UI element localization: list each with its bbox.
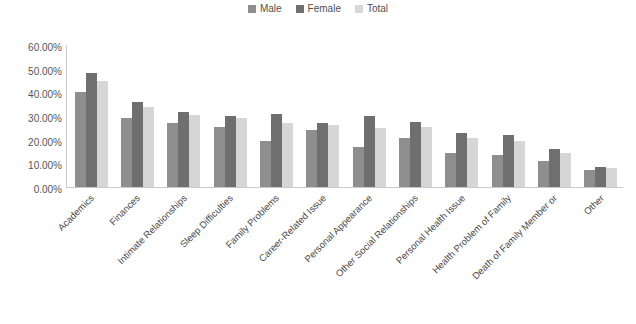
y-tick-label: 60.00% [0, 43, 62, 53]
bar-total[interactable] [328, 125, 339, 187]
bar-group [531, 45, 577, 187]
bar-female[interactable] [410, 122, 421, 187]
x-tick-label: Academics [56, 193, 96, 233]
y-tick-label: 0.00% [0, 185, 62, 195]
x-tick-label: Finances [108, 193, 143, 228]
bar-group [253, 45, 299, 187]
bar-male[interactable] [492, 155, 503, 187]
bar-total[interactable] [236, 118, 247, 187]
bar-group [578, 45, 624, 187]
bar-female[interactable] [317, 123, 328, 187]
x-tick-label: Other [582, 193, 606, 217]
y-tick-label: 10.00% [0, 161, 62, 171]
x-tick-slot: Sleep Difficulties [205, 189, 251, 319]
bar-female[interactable] [364, 116, 375, 187]
legend-swatch-total [355, 5, 363, 13]
bar-female[interactable] [86, 73, 97, 187]
bar-group [392, 45, 438, 187]
bar-total[interactable] [514, 141, 525, 187]
bar-female[interactable] [456, 133, 467, 187]
bar-male[interactable] [214, 127, 225, 187]
bar-total[interactable] [97, 81, 108, 188]
bar-male[interactable] [75, 92, 86, 187]
bar-total[interactable] [421, 127, 432, 187]
bar-total[interactable] [189, 115, 200, 187]
y-tick-label: 50.00% [0, 67, 62, 77]
bar-female[interactable] [271, 114, 282, 187]
bar-groups [68, 45, 624, 187]
bar-male[interactable] [399, 138, 410, 187]
bar-total[interactable] [282, 123, 293, 187]
plot-area [66, 45, 623, 188]
bar-male[interactable] [121, 118, 132, 187]
bar-female[interactable] [225, 116, 236, 187]
legend-item-total[interactable]: Total [355, 4, 388, 14]
bar-male[interactable] [584, 170, 595, 187]
bar-total[interactable] [467, 138, 478, 187]
bar-group [439, 45, 485, 187]
bar-chart: Male Female Total 60.00% 50.00% 40.00% 3… [0, 0, 636, 324]
legend-label-total: Total [367, 4, 388, 14]
bar-total[interactable] [560, 153, 571, 187]
chart-legend: Male Female Total [0, 4, 636, 14]
x-tick-slot: Death of Family Member or [529, 189, 575, 319]
legend-label-male: Male [260, 4, 282, 14]
x-tick-slot: Academics [66, 189, 112, 319]
bar-group [161, 45, 207, 187]
bar-group [114, 45, 160, 187]
legend-label-female: Female [308, 4, 341, 14]
y-tick-label: 20.00% [0, 138, 62, 148]
legend-item-male[interactable]: Male [248, 4, 282, 14]
bar-male[interactable] [445, 153, 456, 187]
legend-swatch-male [248, 5, 256, 13]
legend-item-female[interactable]: Female [296, 4, 341, 14]
bar-group [68, 45, 114, 187]
bar-total[interactable] [375, 128, 386, 187]
x-axis: AcademicsFinancesIntimate RelationshipsS… [66, 189, 622, 319]
bar-male[interactable] [260, 141, 271, 187]
y-tick-label: 40.00% [0, 90, 62, 100]
bar-group [300, 45, 346, 187]
bar-total[interactable] [606, 168, 617, 187]
y-tick-label: 30.00% [0, 114, 62, 124]
bar-group [207, 45, 253, 187]
bar-male[interactable] [306, 130, 317, 187]
legend-swatch-female [296, 5, 304, 13]
bar-female[interactable] [132, 102, 143, 187]
bar-male[interactable] [167, 123, 178, 187]
bar-female[interactable] [595, 167, 606, 187]
y-axis: 60.00% 50.00% 40.00% 30.00% 20.00% 10.00… [0, 40, 62, 192]
bar-male[interactable] [538, 161, 549, 187]
bar-male[interactable] [353, 147, 364, 187]
bar-female[interactable] [178, 112, 189, 187]
bar-group [485, 45, 531, 187]
bar-female[interactable] [549, 149, 560, 187]
bar-total[interactable] [143, 107, 154, 187]
bar-group [346, 45, 392, 187]
bar-female[interactable] [503, 135, 514, 187]
x-tick-slot: Intimate Relationships [159, 189, 205, 319]
x-tick-slot: Other [576, 189, 622, 319]
